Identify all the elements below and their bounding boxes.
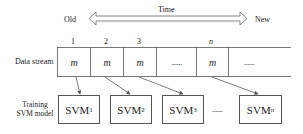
svm-base: SVM [65,104,89,116]
label-line: SVM model [14,109,56,118]
training-svm-model-label: Training SVM model [14,100,56,118]
svm-base: SVM [169,104,193,116]
index-label: 3 [137,38,141,46]
data-cell-ellipsis: ...... [229,48,269,76]
label-line: Training [14,100,56,109]
svm-model-box: SVMn [239,95,282,124]
data-cell-ellipsis: ...... [157,48,196,76]
old-label: Old [64,16,76,24]
svm-base: SVM [117,104,141,116]
index-label: 1 [71,38,75,46]
index-label: 2 [104,38,108,46]
new-label: New [255,16,270,24]
time-label: Time [158,6,175,14]
svm-model-box: SVM1 [58,95,100,124]
data-cell: m [91,48,123,76]
svm-model-box: SVM2 [110,95,152,124]
svm-base: SVM [247,104,271,116]
data-cell: m [124,48,156,76]
data-stream-label: Data stream [15,58,53,66]
data-cell: m [197,48,228,76]
training-arrows [76,77,258,94]
index-label: n [209,38,213,46]
data-cell: m [58,48,90,76]
models-ellipsis: ...... [212,105,223,114]
svm-model-box: SVM3 [162,95,204,124]
